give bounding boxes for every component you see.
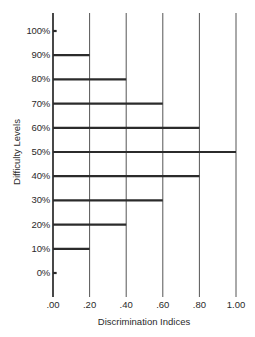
chart: 100%90%80%70%60%50%40%30%20%10%0% .00.20… [0, 0, 255, 337]
y-tick-label: 100% [27, 26, 51, 36]
x-tick-label: .00 [46, 300, 59, 310]
x-tick-label: .40 [120, 300, 133, 310]
y-tick-label: 20% [32, 220, 50, 230]
x-tick-label: 1.00 [227, 300, 246, 310]
y-tick-label: 30% [32, 195, 50, 205]
x-tick-label: .60 [156, 300, 169, 310]
y-axis-label: Difficulty Levels [11, 119, 22, 185]
x-axis-label: Discrimination Indices [98, 316, 190, 327]
x-tick-label: .20 [83, 300, 96, 310]
y-tick-label: 10% [32, 244, 50, 254]
y-tick-label: 0% [37, 268, 50, 278]
y-tick-label: 70% [32, 99, 50, 109]
y-tick-label: 40% [32, 171, 50, 181]
y-tick-label: 60% [32, 123, 50, 133]
x-tick-label: .80 [193, 300, 206, 310]
y-tick-label: 80% [32, 74, 50, 84]
y-tick-label: 90% [32, 50, 50, 60]
y-tick-label: 50% [32, 147, 50, 157]
